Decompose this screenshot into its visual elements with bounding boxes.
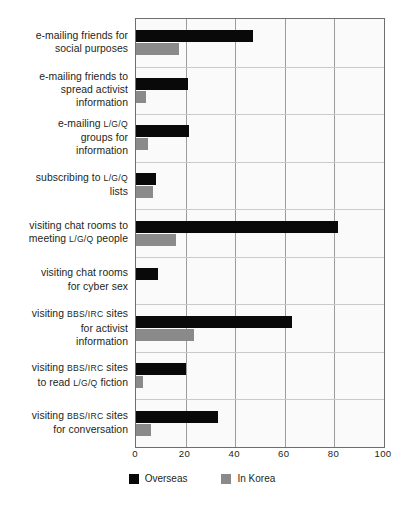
gridline-horizontal <box>136 114 384 115</box>
bar-inkorea-2 <box>136 91 146 103</box>
bar-overseas-9 <box>136 411 218 423</box>
bar-inkorea-1 <box>136 43 179 55</box>
x-tick-label-80: 80 <box>328 448 339 459</box>
legend-swatch-icon <box>129 474 139 484</box>
category-label-1: e-mailing friends forsocial purposes <box>4 29 128 55</box>
bar-overseas-1 <box>136 30 253 42</box>
category-label-2: e-mailing friends tospread activistinfor… <box>4 70 128 110</box>
bar-overseas-4 <box>136 173 156 185</box>
legend-item-2[interactable]: In Korea <box>221 473 275 484</box>
x-tick-label-40: 40 <box>228 448 239 459</box>
gridline-horizontal <box>136 352 384 353</box>
gridline-horizontal <box>136 399 384 400</box>
bar-inkorea-8 <box>136 376 143 388</box>
legend-swatch-icon <box>221 474 231 484</box>
plot-area <box>135 18 385 448</box>
gridline-vertical <box>235 19 236 447</box>
category-label-6: visiting chat roomsfor cyber sex <box>4 266 128 292</box>
x-axis-ticks: 020406080100 <box>135 448 383 466</box>
bar-inkorea-9 <box>136 424 151 436</box>
bar-overseas-8 <box>136 363 186 375</box>
legend-label: Overseas <box>145 473 188 484</box>
legend-item-1[interactable]: Overseas <box>129 473 188 484</box>
category-label-7: visiting BBS/IRC sitesfor activistinform… <box>4 307 128 348</box>
legend-label: In Korea <box>237 473 275 484</box>
gridline-horizontal <box>136 209 384 210</box>
x-tick-label-60: 60 <box>278 448 289 459</box>
category-label-9: visiting BBS/IRC sitesfor conversation <box>4 409 128 436</box>
gridline-horizontal <box>136 67 384 68</box>
gridline-vertical <box>285 19 286 447</box>
category-label-4: subscribing to L/G/Qlists <box>4 171 128 198</box>
x-tick-label-0: 0 <box>132 448 138 459</box>
gridline-horizontal <box>136 162 384 163</box>
bar-overseas-7 <box>136 316 292 328</box>
bar-overseas-2 <box>136 78 188 90</box>
bar-inkorea-5 <box>136 234 176 246</box>
x-tick-label-100: 100 <box>374 448 391 459</box>
category-label-3: e-mailing L/G/Qgroups forinformation <box>4 117 128 158</box>
bar-overseas-5 <box>136 221 338 233</box>
x-tick-label-20: 20 <box>179 448 190 459</box>
horizontal-bar-chart: e-mailing friends forsocial purposese-ma… <box>0 0 404 505</box>
bar-overseas-3 <box>136 125 189 137</box>
bar-overseas-6 <box>136 268 158 280</box>
category-label-5: visiting chat rooms tomeeting L/G/Q peop… <box>4 219 128 246</box>
gridline-horizontal <box>136 304 384 305</box>
bar-inkorea-7 <box>136 329 194 341</box>
bar-inkorea-4 <box>136 186 153 198</box>
gridline-vertical <box>334 19 335 447</box>
chart-legend: OverseasIn Korea <box>0 473 404 484</box>
category-label-8: visiting BBS/IRC sitesto read L/G/Q fict… <box>4 361 128 389</box>
category-labels: e-mailing friends forsocial purposese-ma… <box>0 18 128 446</box>
gridline-horizontal <box>136 257 384 258</box>
bar-inkorea-3 <box>136 138 148 150</box>
